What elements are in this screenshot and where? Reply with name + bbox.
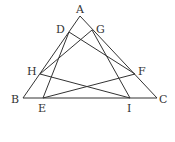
label-C: C [159, 93, 167, 106]
label-E: E [38, 102, 46, 115]
triangle-diagram: A B C D G H F E I [0, 0, 175, 142]
segment-HI [40, 74, 130, 98]
segment-DF [69, 32, 135, 74]
segment-AB [23, 16, 80, 98]
segment-DE [43, 32, 69, 98]
label-I: I [127, 102, 131, 115]
segment-GI [92, 30, 130, 98]
label-G: G [96, 23, 105, 36]
segment-EF [43, 74, 135, 98]
label-H: H [27, 65, 37, 78]
label-B: B [11, 93, 19, 106]
label-A: A [75, 3, 85, 16]
label-F: F [138, 65, 146, 78]
label-D: D [56, 23, 65, 36]
